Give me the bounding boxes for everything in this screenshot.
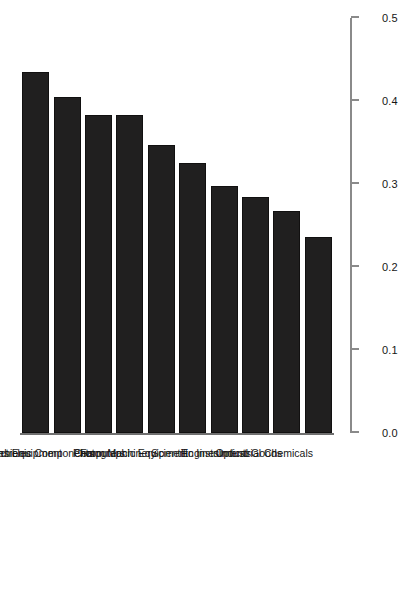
rotated-plot-stage: 0.00.10.20.30.40.5 Motor VehiclesCommuni… — [0, 0, 404, 589]
bar — [22, 72, 49, 433]
bar — [211, 186, 238, 433]
bar — [179, 163, 206, 433]
category-baseline — [20, 433, 334, 435]
bar — [273, 211, 300, 433]
axis-tick-label: 0.0 — [370, 427, 404, 439]
plot-area: 0.00.10.20.30.40.5 Motor VehiclesCommuni… — [20, 18, 334, 433]
bars-layer — [20, 18, 334, 433]
bar — [305, 237, 332, 433]
axis-tick-label: 0.3 — [370, 178, 404, 190]
axis-tick — [351, 16, 359, 18]
axis-tick — [351, 99, 359, 101]
axis-tick-label: 0.1 — [370, 344, 404, 356]
bar — [116, 115, 143, 433]
axis-tick — [351, 348, 359, 350]
axis-tick-label: 0.2 — [370, 261, 404, 273]
axis-tick-label: 0.4 — [370, 95, 404, 107]
bar — [54, 97, 81, 433]
axis-tick — [351, 182, 359, 184]
axis-tick-label: 0.5 — [370, 12, 404, 24]
bar — [85, 115, 112, 433]
bar — [242, 197, 269, 433]
axis-tick — [351, 265, 359, 267]
bar-chart-figure: 0.00.10.20.30.40.5 Motor VehiclesCommuni… — [0, 0, 404, 589]
value-axis-line — [350, 18, 352, 433]
category-label: Industrial Chemicals — [219, 447, 314, 459]
bar — [148, 145, 175, 433]
axis-tick — [351, 431, 359, 433]
